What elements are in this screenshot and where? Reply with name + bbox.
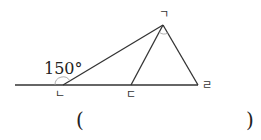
answer-close-paren: ) [246, 110, 254, 130]
point-label-nieun: ㄴ [55, 89, 65, 100]
segment-giyeok-rieul [163, 25, 198, 85]
point-label-digeut: ㄷ [126, 89, 136, 100]
geometry-figure [0, 0, 261, 140]
exterior-angle-arc [55, 77, 70, 85]
angle-label: 150° [44, 61, 83, 77]
answer-open-paren: ( [76, 110, 84, 130]
point-label-rieul: ㄹ [202, 80, 212, 91]
point-label-giyeok: ㄱ [159, 9, 169, 20]
